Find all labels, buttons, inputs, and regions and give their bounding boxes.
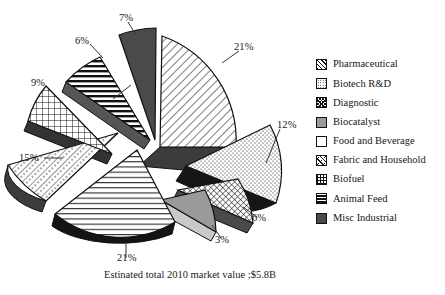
fabric-and-household-swatch-icon	[316, 155, 327, 166]
animal-feed-swatch-icon	[316, 193, 327, 204]
label-animal-feed-pct: 6%	[75, 35, 89, 46]
legend-item-fabric-and-household[interactable]: Fabric and Household	[316, 151, 444, 170]
label-biocatalyst-pct: 3%	[215, 234, 229, 245]
legend-label-diagnostic: Diagnostic	[333, 98, 379, 109]
biocatalyst-swatch-icon	[316, 117, 327, 128]
legend-item-diagnostic[interactable]: Diagnostic	[316, 93, 444, 112]
chart-plot-area: 21% 12% 6% 3% 21% 15% 9% 6% 7%	[0, 0, 300, 265]
legend-label-fabric-and-household: Fabric and Household	[333, 155, 426, 166]
label-pharmaceutical-pct: 21%	[234, 41, 254, 52]
legend-label-biofuel: Biofuel	[333, 174, 365, 185]
chart-legend: Pharmaceutical Biotech R&D Diagnostic Bi…	[316, 55, 444, 228]
diagnostic-swatch-icon	[316, 97, 327, 108]
legend-label-biotech-rd: Biotech R&D	[333, 79, 391, 90]
biofuel-swatch-icon	[316, 174, 327, 185]
pie-slice-pharmaceutical	[160, 36, 236, 147]
food-and-beverage-swatch-icon	[316, 136, 327, 147]
biotech-rd-swatch-icon	[316, 78, 327, 89]
label-diagnostic-pct: 6%	[252, 212, 266, 223]
legend-item-biocatalyst[interactable]: Biocatalyst	[316, 113, 444, 132]
legend-label-biocatalyst: Biocatalyst	[333, 117, 380, 128]
legend-item-biotech-rd[interactable]: Biotech R&D	[316, 74, 444, 93]
label-fabric-pct: 15%	[19, 152, 39, 163]
legend-item-biofuel[interactable]: Biofuel	[316, 170, 444, 189]
label-food-beverage-pct: 21%	[117, 252, 137, 263]
legend-label-food-and-beverage: Food and Beverage	[333, 136, 415, 147]
legend-item-animal-feed[interactable]: Animal Feed	[316, 189, 444, 208]
pie-chart-figure: 21% 12% 6% 3% 21% 15% 9% 6% 7% Estinated…	[0, 0, 445, 295]
exploded-3d-pie-svg	[0, 0, 300, 265]
legend-item-food-and-beverage[interactable]: Food and Beverage	[316, 132, 444, 151]
label-biotech-pct: 12%	[277, 119, 297, 130]
legend-label-misc-industrial: Misc Industrial	[333, 213, 397, 224]
legend-item-misc-industrial[interactable]: Misc Industrial	[316, 209, 444, 228]
legend-label-animal-feed: Animal Feed	[333, 194, 388, 205]
misc-industrial-swatch-icon	[316, 213, 327, 224]
chart-caption: Estinated total 2010 market value ;$5.8B	[0, 269, 380, 280]
legend-item-pharmaceutical[interactable]: Pharmaceutical	[316, 55, 444, 74]
legend-label-pharmaceutical: Pharmaceutical	[333, 59, 398, 70]
label-misc-industrial-pct: 7%	[119, 12, 133, 23]
pharmaceutical-swatch-icon	[316, 59, 327, 70]
label-biofuel-pct: 9%	[31, 77, 45, 88]
